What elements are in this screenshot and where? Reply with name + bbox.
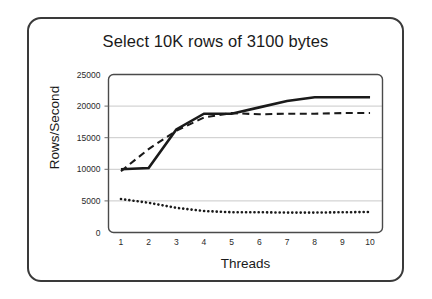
y-tick-label: 5000 <box>82 196 101 206</box>
x-tick-label: 10 <box>365 237 375 247</box>
y-tick-label: 25000 <box>77 70 101 80</box>
x-tick-label: 3 <box>174 237 179 247</box>
x-tick-label: 7 <box>285 237 290 247</box>
plot-area: 0500010000150002000025000 12345678910 <box>0 0 432 299</box>
x-tick-label: 6 <box>257 237 262 247</box>
x-axis-ticks: 12345678910 <box>119 237 375 247</box>
y-tick-label: 10000 <box>77 164 101 174</box>
x-tick-label: 5 <box>229 237 234 247</box>
gridlines <box>109 106 383 201</box>
series-line-solid <box>121 97 370 169</box>
series-line-dashed <box>121 113 370 171</box>
y-axis-ticks: 0500010000150002000025000 <box>77 70 109 238</box>
y-tick-label: 20000 <box>77 101 101 111</box>
x-tick-label: 9 <box>340 237 345 247</box>
data-series-group <box>121 97 370 212</box>
x-tick-label: 8 <box>312 237 317 247</box>
x-tick-label: 2 <box>146 237 151 247</box>
x-tick-label: 1 <box>119 237 124 247</box>
x-tick-label: 4 <box>202 237 207 247</box>
y-tick-label: 15000 <box>77 133 101 143</box>
y-tick-label: 0 <box>96 228 101 238</box>
